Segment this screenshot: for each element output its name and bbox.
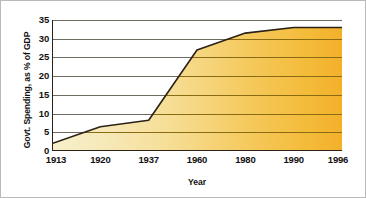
chart-figure: Govt. Spending, as % of GDP 051015202530…	[0, 0, 366, 198]
y-axis-tick-label: 15	[27, 90, 49, 99]
y-axis-tick-label: 5	[27, 127, 49, 136]
x-axis-tick-label: 1920	[78, 154, 122, 165]
x-axis-tick-label: 1980	[223, 154, 267, 165]
x-axis-tick-label: 1996	[316, 154, 360, 165]
y-axis-tick-label: 25	[27, 52, 49, 61]
plot-area	[52, 20, 342, 151]
y-axis-tick-label: 10	[27, 109, 49, 118]
y-axis-title-container: Govt. Spending, as % of GDP	[1, 1, 21, 198]
x-axis-tick-label: 1960	[175, 154, 219, 165]
y-axis-tick-label: 30	[27, 34, 49, 43]
y-axis-tick-label: 20	[27, 71, 49, 80]
x-axis-tick-label: 1990	[272, 154, 316, 165]
x-axis-tick-label: 1913	[34, 154, 78, 165]
y-axis-tick-label: 35	[27, 15, 49, 24]
y-axis-tick-labels: 05101520253035	[23, 1, 49, 198]
x-axis-tick-label: 1937	[127, 154, 171, 165]
x-axis-tick-labels: 1913192019371960198019901996	[52, 154, 342, 170]
x-axis-title: Year	[52, 177, 342, 187]
